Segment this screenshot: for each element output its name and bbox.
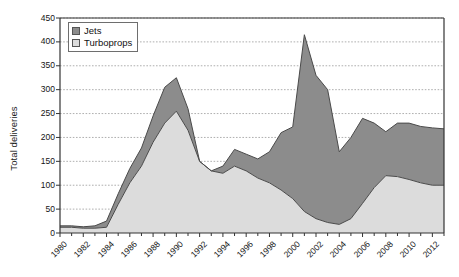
legend-item-label: Jets bbox=[84, 26, 101, 36]
legend-item-label: Turboprops bbox=[84, 38, 132, 48]
y-tick-label: 0 bbox=[26, 228, 55, 238]
y-tick-label: 200 bbox=[26, 132, 55, 142]
y-tick-label: 50 bbox=[26, 204, 55, 214]
legend-swatch-icon bbox=[72, 39, 80, 47]
y-tick-label: 450 bbox=[26, 13, 55, 23]
y-tick-label: 250 bbox=[26, 108, 55, 118]
chart-legend: JetsTurboprops bbox=[68, 22, 138, 52]
chart-container: Total deliveries 05010015020025030035040… bbox=[0, 0, 459, 277]
y-tick-label: 350 bbox=[26, 60, 55, 70]
y-tick-label: 100 bbox=[26, 180, 55, 190]
y-tick-label: 300 bbox=[26, 84, 55, 94]
y-tick-label: 400 bbox=[26, 36, 55, 46]
legend-item[interactable]: Jets bbox=[72, 25, 132, 37]
legend-item[interactable]: Turboprops bbox=[72, 37, 132, 49]
legend-swatch-icon bbox=[72, 27, 80, 35]
y-tick-label: 150 bbox=[26, 156, 55, 166]
